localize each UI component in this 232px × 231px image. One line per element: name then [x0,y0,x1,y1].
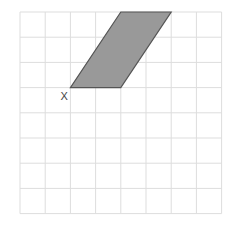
grid-diagram [0,0,232,231]
parallelogram-shape [70,12,171,88]
point-label-x: X [60,91,67,102]
